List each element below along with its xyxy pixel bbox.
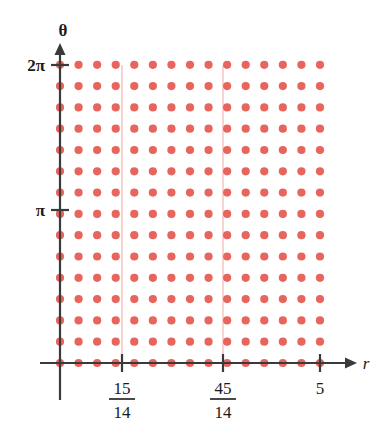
lattice-dots-group bbox=[56, 61, 324, 367]
lattice-dot bbox=[112, 146, 120, 154]
lattice-dot bbox=[260, 295, 268, 303]
lattice-dot bbox=[242, 316, 250, 324]
lattice-dot bbox=[204, 252, 212, 260]
lattice-dot bbox=[223, 103, 231, 111]
lattice-dot bbox=[130, 231, 138, 239]
lattice-dot bbox=[279, 189, 287, 197]
lattice-dot bbox=[74, 125, 82, 133]
lattice-dot bbox=[204, 274, 212, 282]
lattice-dot bbox=[279, 231, 287, 239]
r-axis-label: r bbox=[363, 354, 370, 373]
lattice-dot bbox=[74, 189, 82, 197]
theta-axis-label: θ bbox=[59, 21, 68, 40]
lattice-dot bbox=[112, 338, 120, 346]
lattice-dot bbox=[297, 189, 305, 197]
lattice-dot bbox=[242, 295, 250, 303]
lattice-dot bbox=[297, 274, 305, 282]
lattice-dot bbox=[316, 338, 324, 346]
lattice-dot bbox=[186, 61, 194, 69]
lattice-dot bbox=[204, 61, 212, 69]
lattice-dot bbox=[260, 210, 268, 218]
lattice-dot bbox=[186, 274, 194, 282]
lattice-dot bbox=[93, 231, 101, 239]
lattice-dot bbox=[260, 103, 268, 111]
lattice-dot bbox=[204, 189, 212, 197]
lattice-dot bbox=[186, 103, 194, 111]
polar-lattice-figure: r θ 2π π 15 14 45 14 5 bbox=[0, 0, 388, 438]
lattice-dot bbox=[74, 274, 82, 282]
lattice-dot bbox=[223, 231, 231, 239]
lattice-dot bbox=[242, 231, 250, 239]
lattice-dot bbox=[279, 82, 287, 90]
lattice-dot bbox=[297, 338, 305, 346]
lattice-dot bbox=[279, 252, 287, 260]
lattice-dot bbox=[297, 167, 305, 175]
lattice-dot bbox=[260, 316, 268, 324]
lattice-dot bbox=[316, 274, 324, 282]
lattice-dot bbox=[223, 82, 231, 90]
lattice-dot bbox=[74, 210, 82, 218]
lattice-dot bbox=[149, 82, 157, 90]
lattice-dot bbox=[167, 231, 175, 239]
lattice-dot bbox=[279, 316, 287, 324]
lattice-dot bbox=[223, 61, 231, 69]
lattice-dot bbox=[279, 167, 287, 175]
lattice-dot bbox=[93, 210, 101, 218]
lattice-dot bbox=[297, 103, 305, 111]
lattice-dot bbox=[186, 82, 194, 90]
lattice-dot bbox=[186, 231, 194, 239]
lattice-dot bbox=[112, 210, 120, 218]
lattice-dot bbox=[112, 231, 120, 239]
lattice-dot bbox=[93, 189, 101, 197]
lattice-dot bbox=[242, 189, 250, 197]
lattice-dot bbox=[149, 103, 157, 111]
lattice-dot bbox=[112, 61, 120, 69]
lattice-dot bbox=[149, 210, 157, 218]
lattice-dot bbox=[186, 146, 194, 154]
lattice-dot bbox=[204, 103, 212, 111]
lattice-dot bbox=[130, 125, 138, 133]
lattice-dot bbox=[149, 252, 157, 260]
lattice-dot bbox=[316, 125, 324, 133]
lattice-dot bbox=[204, 316, 212, 324]
lattice-dot bbox=[242, 146, 250, 154]
lattice-dot bbox=[242, 167, 250, 175]
lattice-dot bbox=[149, 316, 157, 324]
lattice-dot bbox=[316, 231, 324, 239]
lattice-dot bbox=[223, 338, 231, 346]
lattice-dot bbox=[223, 189, 231, 197]
lattice-dot bbox=[223, 125, 231, 133]
lattice-dot bbox=[186, 316, 194, 324]
lattice-dot bbox=[93, 103, 101, 111]
lattice-dot bbox=[130, 103, 138, 111]
lattice-dot bbox=[242, 274, 250, 282]
lattice-dot bbox=[93, 274, 101, 282]
lattice-dot bbox=[112, 82, 120, 90]
lattice-dot bbox=[242, 103, 250, 111]
lattice-dot bbox=[316, 146, 324, 154]
lattice-dot bbox=[93, 125, 101, 133]
lattice-dot bbox=[74, 61, 82, 69]
lattice-dot bbox=[186, 295, 194, 303]
lattice-dot bbox=[316, 316, 324, 324]
lattice-dot bbox=[297, 295, 305, 303]
lattice-dot bbox=[204, 82, 212, 90]
lattice-dot bbox=[167, 167, 175, 175]
lattice-dot bbox=[74, 231, 82, 239]
lattice-dot bbox=[93, 167, 101, 175]
lattice-dot bbox=[167, 295, 175, 303]
lattice-dot bbox=[149, 125, 157, 133]
lattice-dot bbox=[316, 167, 324, 175]
lattice-dot bbox=[279, 103, 287, 111]
lattice-dot bbox=[297, 61, 305, 69]
theta-axis-group bbox=[51, 43, 69, 400]
lattice-dot bbox=[74, 338, 82, 346]
lattice-dot bbox=[297, 125, 305, 133]
lattice-dot bbox=[130, 189, 138, 197]
lattice-dot bbox=[260, 252, 268, 260]
lattice-dot bbox=[186, 210, 194, 218]
lattice-dot bbox=[204, 125, 212, 133]
lattice-dot bbox=[223, 295, 231, 303]
lattice-dot bbox=[242, 210, 250, 218]
lattice-dot bbox=[316, 103, 324, 111]
